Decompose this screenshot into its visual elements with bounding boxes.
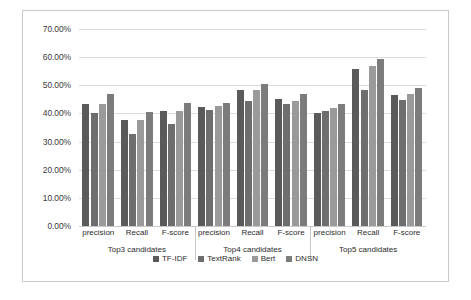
bar <box>107 94 114 226</box>
bar-group <box>387 29 426 226</box>
bar <box>322 111 329 226</box>
legend-swatch-icon <box>252 256 258 262</box>
group-label: Top3 candidates <box>108 245 166 254</box>
bar-group <box>118 29 157 226</box>
bar <box>415 88 422 226</box>
category-label: F-score <box>162 228 189 237</box>
bar-group <box>79 29 118 226</box>
bar <box>352 69 359 226</box>
category-label: precision <box>314 228 346 237</box>
bar <box>176 111 183 226</box>
legend-label: TF-IDF <box>162 254 187 263</box>
category-label: precision <box>198 228 230 237</box>
bar-group <box>156 29 195 226</box>
y-axis-tick-label: 40.00% <box>43 108 71 118</box>
bar <box>129 134 136 226</box>
bar <box>206 110 213 227</box>
group-label: Top4 candidates <box>223 245 281 254</box>
bar <box>146 112 153 226</box>
bar <box>245 101 252 226</box>
bar <box>275 99 282 226</box>
y-axis-tick-label: 50.00% <box>43 80 71 90</box>
bar <box>391 95 398 226</box>
category-label: F-score <box>393 228 420 237</box>
bar <box>237 90 244 226</box>
bar <box>407 94 414 226</box>
legend-swatch-icon <box>153 256 159 262</box>
bar <box>261 84 268 226</box>
bar-group <box>310 29 349 226</box>
axis-rule <box>79 226 426 227</box>
y-axis-tick-label: 0.00% <box>47 221 71 231</box>
y-axis-tick-label: 70.00% <box>43 24 71 34</box>
legend-item[interactable]: DNSN <box>286 254 318 263</box>
bar-chart: 0.00%10.00%20.00%30.00%40.00%50.00%60.00… <box>22 10 449 282</box>
bar-group <box>195 29 234 226</box>
bar <box>314 113 321 226</box>
category-label: Recall <box>241 228 263 237</box>
y-axis-tick-label: 30.00% <box>43 137 71 147</box>
group-label: Top5 candidates <box>339 245 397 254</box>
bar <box>137 120 144 226</box>
bar-group <box>272 29 311 226</box>
bar <box>99 104 106 226</box>
bar <box>292 101 299 226</box>
y-axis: 0.00%10.00%20.00%30.00%40.00%50.00%60.00… <box>23 29 75 226</box>
category-label: Recall <box>357 228 379 237</box>
bar <box>377 59 384 226</box>
bar <box>399 100 406 226</box>
bar <box>160 111 167 226</box>
bar <box>300 94 307 226</box>
legend-item[interactable]: TF-IDF <box>153 254 187 263</box>
bar <box>361 90 368 226</box>
legend-item[interactable]: Bert <box>252 254 276 263</box>
legend-label: Bert <box>261 254 276 263</box>
category-label: F-score <box>277 228 304 237</box>
y-axis-tick-label: 60.00% <box>43 52 71 62</box>
bar <box>184 103 191 226</box>
bar-group <box>349 29 388 226</box>
bar-group <box>233 29 272 226</box>
legend-label: TextRank <box>207 254 240 263</box>
bar <box>223 103 230 226</box>
legend-swatch-icon <box>198 256 204 262</box>
legend-label: DNSN <box>295 254 318 263</box>
bar <box>215 106 222 226</box>
bar <box>121 120 128 226</box>
bar <box>91 113 98 226</box>
bar <box>330 108 337 226</box>
y-axis-tick-label: 10.00% <box>43 193 71 203</box>
category-label: Recall <box>126 228 148 237</box>
legend-swatch-icon <box>286 256 292 262</box>
bars-layer <box>79 29 426 226</box>
y-axis-tick-label: 20.00% <box>43 165 71 175</box>
bar <box>253 90 260 226</box>
bar <box>369 66 376 226</box>
bar <box>283 104 290 226</box>
bar <box>82 104 89 226</box>
bar <box>168 124 175 226</box>
plot-area <box>79 29 426 226</box>
legend: TF-IDFTextRankBertDNSN <box>23 254 448 263</box>
category-label: precision <box>82 228 114 237</box>
bar <box>198 107 205 226</box>
legend-item[interactable]: TextRank <box>198 254 240 263</box>
bar <box>338 104 345 226</box>
